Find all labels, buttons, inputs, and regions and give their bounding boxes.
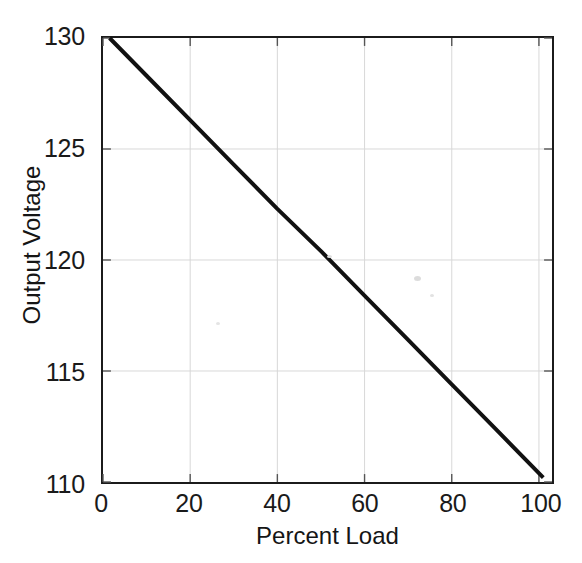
- x-axis-tick-labels: 020406080100: [101, 489, 554, 521]
- y-axis-title-wrapper: Output Voltage: [17, 120, 47, 370]
- y-tick-label: 110: [46, 470, 94, 499]
- x-tick-label: 40: [263, 489, 290, 518]
- y-tick-label: 130: [44, 22, 94, 51]
- y-axis-tick-labels: 110115120125130: [0, 36, 94, 484]
- y-tick-label: 120: [44, 246, 94, 275]
- x-axis-title: Percent Load: [101, 522, 554, 550]
- x-tick-label: 60: [351, 489, 378, 518]
- plot-area: [101, 36, 554, 484]
- x-tick-label: 20: [175, 489, 202, 518]
- y-axis-title: Output Voltage: [17, 120, 47, 370]
- y-tick-label: 115: [46, 358, 94, 387]
- y-tick-label: 125: [44, 134, 94, 163]
- chart-figure: 110115120125130 020406080100 Percent Loa…: [0, 0, 582, 563]
- data-series-line: [103, 38, 552, 482]
- x-tick-label: 100: [520, 489, 561, 518]
- x-tick-label: 0: [94, 489, 108, 518]
- x-tick-label: 80: [439, 489, 466, 518]
